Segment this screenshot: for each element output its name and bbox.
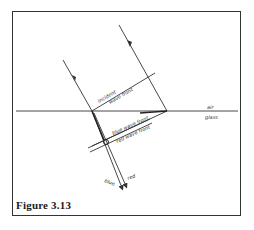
refracted-ray-red (94, 113, 126, 186)
refracted-ray-thick (92, 111, 104, 140)
arrow-icon (127, 40, 132, 47)
figure-caption: Figure 3.13 (16, 199, 71, 211)
incident-ray-right (119, 25, 167, 111)
glass-label: glass (205, 114, 218, 121)
blue-ray-label: blue (104, 177, 116, 186)
red-ray-label: red (126, 172, 137, 181)
incident-ray-left (63, 60, 92, 111)
refraction-diagram: incident wave front air glass blue wave … (0, 0, 254, 230)
air-label: air (207, 104, 214, 110)
